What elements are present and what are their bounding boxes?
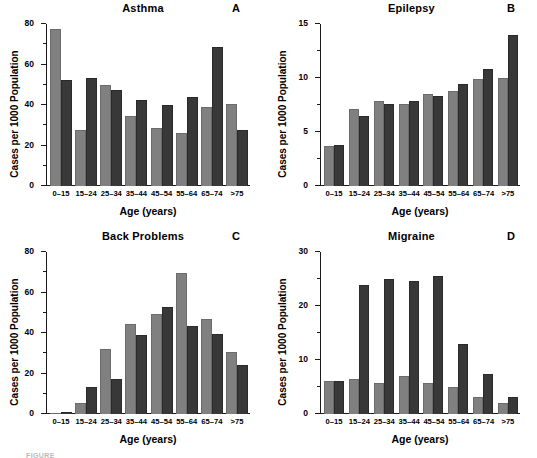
- bar-light: [201, 107, 212, 186]
- bar-dark: [187, 326, 198, 414]
- bar-light: [473, 397, 483, 414]
- bar-light: [324, 381, 334, 414]
- bar-dark: [458, 344, 468, 414]
- y-tick-label: 30: [299, 246, 308, 256]
- bar-group: [226, 24, 248, 186]
- bar-dark: [384, 279, 394, 414]
- x-tick-label: 45–54: [423, 189, 443, 198]
- x-axis-label: Age (years): [46, 205, 250, 217]
- x-axis-label: Age (years): [46, 433, 250, 445]
- x-tick-label: 25–34: [374, 189, 394, 198]
- bar-light: [448, 91, 458, 186]
- bar-dark: [111, 90, 122, 186]
- bar-light: [50, 29, 61, 186]
- bar-dark: [334, 145, 344, 186]
- y-axis-label: Cases per 1000 Population: [277, 50, 288, 177]
- bar-dark: [212, 47, 223, 186]
- x-tick-label: 35–44: [399, 189, 419, 198]
- y-tick-label: 0: [29, 180, 34, 190]
- bar-dark: [508, 35, 518, 186]
- y-tick-label: 20: [299, 300, 308, 310]
- x-tick-label: 0–15: [50, 417, 72, 426]
- bar-group: [176, 24, 198, 186]
- x-tick-label: 55–64: [448, 189, 468, 198]
- bar-group: [324, 252, 344, 414]
- x-tick-label: >75: [226, 417, 248, 426]
- bar-light: [50, 413, 61, 414]
- x-tick-labels: 0–1515–2425–3435–4445–5455–6465–74>75: [320, 189, 520, 198]
- y-axis-label: Cases per 1000 Population: [9, 278, 20, 405]
- bar-light: [201, 319, 212, 414]
- panel-letter: A: [232, 2, 240, 14]
- bar-group: [151, 24, 173, 186]
- y-tick-label: 0: [29, 408, 34, 418]
- x-tick-label: 15–24: [349, 189, 369, 198]
- bar-dark: [136, 335, 147, 414]
- bar-group: [75, 252, 97, 414]
- bar-group: [201, 252, 223, 414]
- y-tick-label: 15: [299, 18, 308, 28]
- bar-dark: [212, 334, 223, 414]
- x-tick-labels: 0–1515–2425–3435–4445–5455–6465–74>75: [46, 417, 250, 426]
- bar-dark: [86, 387, 97, 414]
- y-tick-label: 20: [25, 368, 34, 378]
- bar-group: [423, 24, 443, 186]
- x-tick-label: 25–34: [100, 189, 122, 198]
- x-tick-label: >75: [226, 189, 248, 198]
- bar-group: [151, 252, 173, 414]
- bar-group: [50, 252, 72, 414]
- y-tick-label: 10: [299, 72, 308, 82]
- bar-light: [324, 146, 334, 186]
- chart-panel-migraine: Migraine D Cases per 1000 Population 010…: [268, 228, 537, 456]
- x-tick-label: 35–44: [125, 189, 147, 198]
- chart-panel-epilepsy: Epilepsy B Cases per 1000 Population 051…: [268, 0, 537, 228]
- bar-dark: [508, 397, 518, 414]
- bar-light: [349, 379, 359, 414]
- bar-group: [324, 24, 344, 186]
- bar-dark: [162, 307, 173, 414]
- bar-series: [46, 252, 250, 414]
- bar-group: [176, 252, 198, 414]
- bar-light: [176, 133, 187, 186]
- x-tick-label: >75: [498, 417, 518, 426]
- bar-group: [349, 252, 369, 414]
- bar-dark: [334, 381, 344, 414]
- bar-group: [423, 252, 443, 414]
- panel-letter: B: [507, 2, 515, 14]
- y-tick-label: 40: [25, 327, 34, 337]
- x-tick-label: 15–24: [75, 189, 97, 198]
- panel-letter: D: [507, 230, 515, 242]
- x-tick-label: 55–64: [176, 417, 198, 426]
- x-tick-label: 45–54: [151, 417, 173, 426]
- x-tick-label: 15–24: [349, 417, 369, 426]
- x-tick-label: 55–64: [176, 189, 198, 198]
- bar-group: [201, 24, 223, 186]
- x-tick-label: 35–44: [399, 417, 419, 426]
- y-axis-label: Cases per 1000 Population: [277, 278, 288, 405]
- bar-group: [448, 252, 468, 414]
- bar-light: [151, 314, 162, 414]
- x-tick-label: 65–74: [473, 189, 493, 198]
- bar-group: [448, 24, 468, 186]
- bar-light: [498, 403, 508, 414]
- bar-light: [498, 78, 508, 186]
- bar-dark: [483, 69, 493, 186]
- bar-dark: [61, 412, 72, 414]
- bar-group: [473, 252, 493, 414]
- y-axis-label: Cases per 1000 Population: [9, 50, 20, 177]
- bar-light: [100, 85, 111, 186]
- y-tick-label: 60: [25, 59, 34, 69]
- x-tick-label: 55–64: [448, 417, 468, 426]
- bar-light: [399, 104, 409, 186]
- bar-group: [226, 252, 248, 414]
- bar-group: [100, 24, 122, 186]
- bar-group: [498, 252, 518, 414]
- y-tick-label: 80: [25, 18, 34, 28]
- y-tick-label: 10: [299, 354, 308, 364]
- bar-group: [100, 252, 122, 414]
- bar-group: [125, 24, 147, 186]
- y-tick-label: 80: [25, 246, 34, 256]
- bar-light: [176, 273, 187, 414]
- bar-series: [320, 24, 520, 186]
